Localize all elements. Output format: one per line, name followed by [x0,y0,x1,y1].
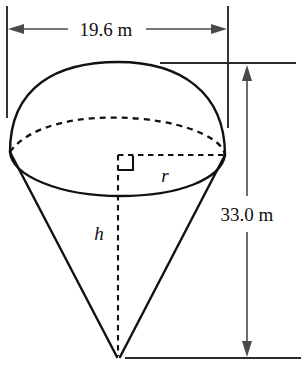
hemisphere-dome-arc [10,62,225,155]
width-arrow-right-icon [211,24,227,34]
height-label: h [94,223,104,244]
radius-label: r [161,165,169,186]
right-angle-marker-icon [118,156,133,170]
width-arrow-left-icon [8,24,24,34]
geometry-diagram: 19.6 m 33.0 m r h [0,0,307,370]
height-arrow-down-icon [242,341,252,357]
height-dimension-label: 33.0 m [221,204,274,225]
height-arrow-up-icon [242,65,252,81]
width-dimension-label: 19.6 m [80,19,133,40]
cone-right-side [120,155,225,357]
cone-left-side [10,152,117,357]
diagram-canvas: 19.6 m 33.0 m r h [0,0,307,370]
base-circle-back-arc [10,118,225,155]
